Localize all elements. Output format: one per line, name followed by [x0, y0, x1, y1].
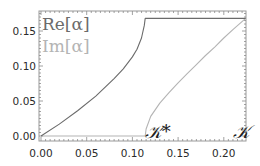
annotations: 𝒦*𝒦 [145, 121, 255, 142]
legend-entry: Im[α] [42, 36, 90, 56]
y-tick-label: 0.00 [13, 130, 36, 142]
x-tick-label: 0.20 [212, 147, 235, 159]
k-star-label: 𝒦* [145, 121, 171, 142]
x-tick-label: 0.00 [29, 147, 52, 159]
chart: 0.000.050.100.150.200.000.050.100.15 Re[… [0, 0, 260, 166]
k-label: 𝒦 [233, 121, 255, 142]
legend-entry: Re[α] [42, 14, 90, 34]
x-tick-label: 0.05 [75, 147, 98, 159]
y-tick-label: 0.10 [13, 60, 36, 72]
x-tick-label: 0.15 [166, 147, 189, 159]
x-tick-label: 0.10 [121, 147, 144, 159]
legend: Re[α]Im[α] [42, 14, 90, 56]
y-tick-label: 0.15 [13, 25, 36, 37]
y-tick-label: 0.05 [13, 95, 36, 107]
